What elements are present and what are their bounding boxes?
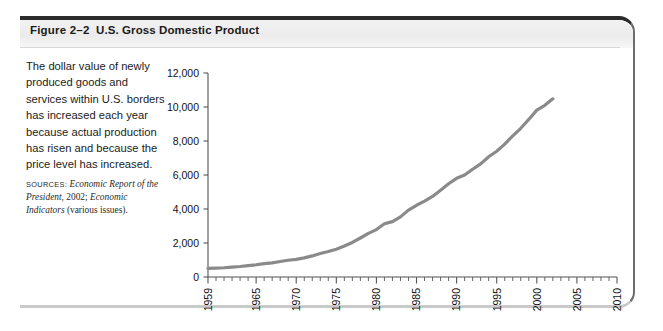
sources-suffix: (various issues). [65, 205, 128, 215]
caption-text: The dollar value of newly produced goods… [26, 58, 166, 173]
figure-header-rule [20, 47, 620, 48]
figure-number-label: Figure 2–2 [30, 24, 90, 36]
caption-sources: SOURCES: Economic Report of the Presiden… [26, 178, 166, 216]
sources-label: SOURCES: [26, 180, 67, 189]
figure-title: U.S. Gross Domestic Product [96, 24, 259, 36]
caption-block: The dollar value of newly produced goods… [26, 58, 166, 216]
figure-screenshot: Figure 2–2 U.S. Gross Domestic Product T… [0, 0, 663, 331]
sources-sep: , 2002; [62, 192, 90, 202]
